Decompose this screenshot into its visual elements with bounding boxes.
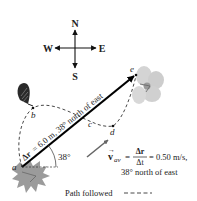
- start-plant-icon: [12, 160, 50, 193]
- velocity-formula: v → av = Δr Δt = 0.50 m/s, 38° north of …: [108, 146, 187, 177]
- equals-sign: =: [125, 152, 130, 162]
- velocity-arrow: [87, 140, 108, 157]
- fraction-numerator: Δr: [136, 147, 145, 156]
- displacement-arrow: [22, 76, 134, 167]
- end-flower-icon: [132, 66, 164, 104]
- point-b-dot: [32, 107, 35, 110]
- butterfly-icon: [18, 83, 33, 106]
- velocity-subscript: av: [114, 156, 122, 164]
- point-b-label: b: [31, 110, 36, 120]
- angle-arc: [48, 145, 56, 167]
- displacement-diagram: N S W E: [0, 0, 197, 201]
- point-e-dot: [135, 74, 138, 77]
- compass-east-label: E: [99, 43, 106, 54]
- compass: N S W E: [43, 18, 106, 82]
- path-legend: Path followed: [65, 188, 152, 198]
- displacement-value: = 6.0 m, 38° north of east: [30, 91, 105, 155]
- velocity-direction: 38° north of east: [121, 167, 178, 177]
- compass-north-label: N: [71, 18, 79, 29]
- point-a-label: a: [12, 162, 17, 172]
- velocity-value: = 0.50 m/s,: [149, 152, 187, 162]
- point-e-label: e: [130, 64, 134, 74]
- fraction-denominator: Δt: [136, 158, 144, 167]
- velocity-arrow-accent: →: [108, 146, 115, 154]
- angle-label: 38°: [58, 152, 71, 162]
- path-legend-label: Path followed: [65, 188, 113, 198]
- point-c-label: c: [88, 119, 92, 129]
- compass-south-label: S: [72, 71, 78, 82]
- compass-west-label: W: [43, 43, 53, 54]
- point-d-label: d: [110, 127, 115, 137]
